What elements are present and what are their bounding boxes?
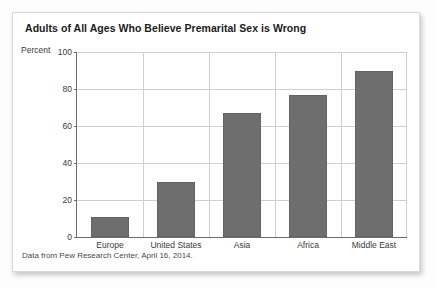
y-axis-tick-mark (74, 163, 77, 164)
y-axis-tick-mark (74, 126, 77, 127)
x-axis-tick-label: United States (150, 240, 201, 250)
y-axis-tick-mark (74, 89, 77, 90)
chart-card: Adults of All Ages Who Believe Premarita… (12, 12, 420, 272)
screenshot-root: Adults of All Ages Who Believe Premarita… (0, 0, 436, 288)
y-axis-tick-label: 20 (63, 195, 72, 205)
y-axis-tick-mark (74, 200, 77, 201)
y-axis-tick-label: 80 (63, 84, 72, 94)
plot-container: 020406080100EuropeUnited StatesAsiaAfric… (13, 13, 421, 273)
source-note: Data from Pew Research Center, April 16,… (22, 251, 193, 260)
y-axis-tick-label: 60 (63, 121, 72, 131)
bar-asia (223, 113, 261, 237)
plot-area: 020406080100EuropeUnited StatesAsiaAfric… (76, 52, 407, 238)
x-axis-tick-label: Asia (234, 240, 251, 250)
x-axis-tick-label: Middle East (352, 240, 396, 250)
gridline-vertical (143, 52, 144, 237)
plot-right-edge (406, 52, 407, 237)
gridline-vertical (341, 52, 342, 237)
bar-europe (91, 217, 129, 237)
bar-middle-east (355, 71, 393, 238)
y-axis-tick-label: 0 (67, 232, 72, 242)
y-axis-tick-mark (74, 237, 77, 238)
y-axis-tick-mark (74, 52, 77, 53)
gridline-vertical (209, 52, 210, 237)
x-axis-tick-label: Europe (96, 240, 123, 250)
bar-united-states (157, 182, 195, 238)
x-axis-tick-label: Africa (297, 240, 319, 250)
y-axis-tick-label: 100 (58, 47, 72, 57)
bar-africa (289, 95, 327, 237)
gridline-horizontal (77, 52, 407, 53)
y-axis-tick-label: 40 (63, 158, 72, 168)
gridline-vertical (275, 52, 276, 237)
